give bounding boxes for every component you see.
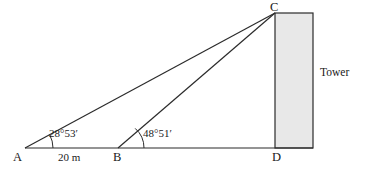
angle-label-a: 28°53′ [49, 128, 78, 139]
line-of-sight-BC [118, 13, 275, 148]
angle-label-b: 48°51′ [143, 128, 172, 139]
vertex-label-a: A [13, 151, 22, 164]
vertex-label-c: C [270, 1, 278, 14]
tower-label: Tower [320, 67, 349, 79]
segment-length-label-ab: 20 m [58, 152, 80, 163]
diagram-canvas [0, 0, 365, 173]
tower-rectangle [275, 13, 313, 148]
vertex-label-d: D [272, 151, 281, 164]
geometry-diagram: A B C D 28°53′ 48°51′ 20 m Tower [0, 0, 365, 173]
vertex-label-b: B [113, 151, 121, 164]
